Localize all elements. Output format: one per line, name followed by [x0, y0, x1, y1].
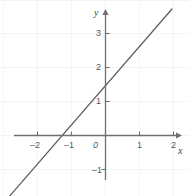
y-axis [102, 9, 110, 180]
y-axis-label: y [94, 8, 98, 18]
y-tick-label-2: 2 [96, 63, 101, 72]
x-axis [14, 132, 182, 139]
x-axis-label: x [178, 146, 182, 156]
plotted-line [8, 9, 172, 196]
x-tick-label-2: 2 [171, 141, 176, 150]
y-tick-label-3: 3 [96, 29, 101, 38]
x-tick-label--1: –1 [64, 141, 74, 150]
x-tick-label-1: 1 [137, 141, 142, 150]
origin-label: 0 [93, 141, 98, 150]
y-tick-label-1: 1 [96, 97, 101, 106]
x-tick-label--2: –2 [30, 141, 40, 150]
graph-figure: –2 –1 0 1 2 –1 1 2 3 x y [0, 0, 189, 196]
y-tick-label--1: –1 [92, 166, 102, 175]
